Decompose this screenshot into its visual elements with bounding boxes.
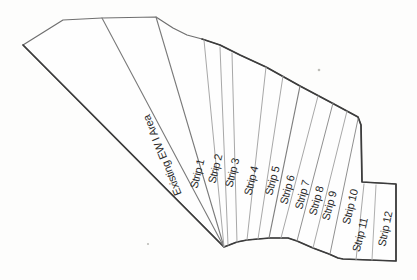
strip-plan-diagram: Existing EW I AreaStrip 1Strip 2Strip 3S… xyxy=(0,0,417,280)
scan-speck-2 xyxy=(147,243,149,245)
scan-speck-1 xyxy=(318,69,321,72)
scanned-diagram-page: Existing EW I AreaStrip 1Strip 2Strip 3S… xyxy=(0,0,417,280)
